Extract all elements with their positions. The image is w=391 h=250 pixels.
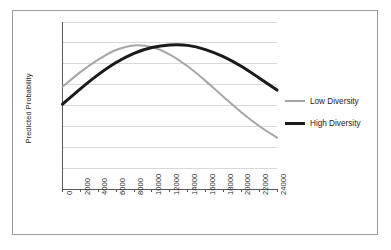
legend-swatch-low-diversity-icon: [285, 100, 305, 102]
x-tick-label: 6000: [119, 178, 127, 195]
legend-label-low-diversity: Low Diversity: [310, 97, 359, 106]
y-axis-title: Predicted Probability: [24, 39, 33, 179]
x-tick-label: 18000: [227, 174, 235, 195]
legend-label-high-diversity: High Diversity: [310, 119, 361, 128]
legend-item-low-diversity: Low Diversity: [285, 90, 385, 112]
x-tick-label: 14000: [191, 174, 199, 195]
x-tick-label: 0: [66, 191, 74, 195]
chart-legend: Low Diversity High Diversity: [285, 90, 385, 134]
x-tick-label: 22000: [262, 174, 270, 195]
figure-container: 0.000.050.100.150.200.250.300.350.40 020…: [0, 0, 391, 250]
x-tick-label: 16000: [209, 174, 217, 195]
x-tick-label: 10000: [155, 174, 163, 195]
x-tick-label: 24000: [280, 174, 288, 195]
x-tick-label: 8000: [137, 178, 145, 195]
legend-swatch-high-diversity-icon: [285, 122, 305, 125]
x-tick-label: 20000: [244, 174, 252, 195]
x-tick-label: 2000: [84, 178, 92, 195]
x-tick-label: 4000: [101, 178, 109, 195]
legend-item-high-diversity: High Diversity: [285, 112, 385, 134]
x-tick-label: 12000: [173, 174, 181, 195]
